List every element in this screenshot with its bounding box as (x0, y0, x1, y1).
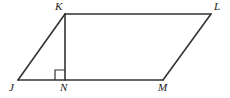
segment-lm (163, 14, 211, 80)
vertex-label-n: N (60, 82, 67, 93)
vertex-label-j: J (9, 82, 14, 93)
geometry-figure: K L J N M (0, 0, 230, 98)
vertex-label-m: M (158, 82, 167, 93)
geometry-diagram-svg (0, 0, 230, 98)
right-angle-marker-n (55, 70, 65, 80)
vertex-label-l: L (214, 1, 220, 12)
vertex-label-k: K (55, 1, 62, 12)
